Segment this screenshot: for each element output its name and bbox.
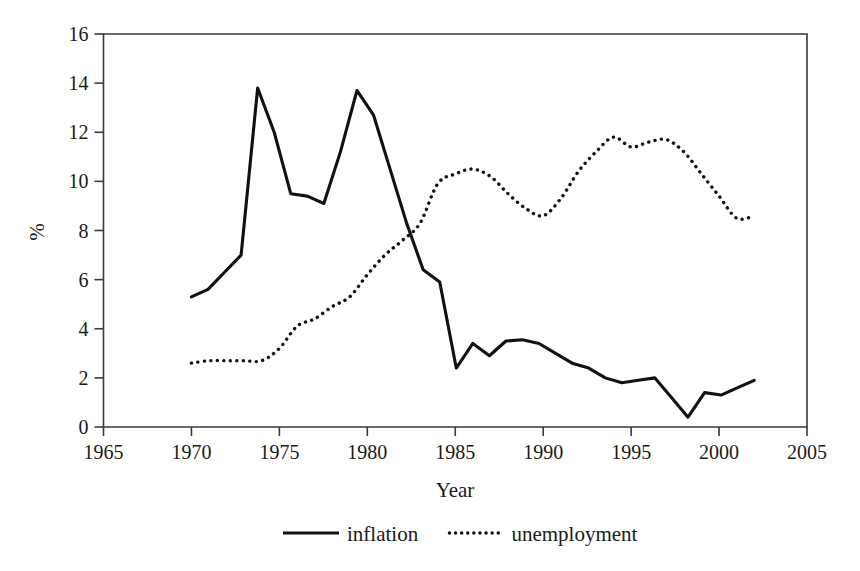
y-tick-label-8: 8	[79, 220, 89, 242]
y-tick-label-6: 6	[79, 269, 89, 291]
legend-label-unemployment: unemployment	[511, 522, 637, 546]
y-tick-label-16: 16	[69, 23, 89, 45]
y-tick-label-14: 14	[69, 72, 89, 94]
legend-label-inflation: inflation	[347, 522, 419, 546]
x-tick-label-2000: 2000	[699, 441, 739, 463]
x-tick-label-1965: 1965	[84, 441, 124, 463]
data-series-group	[191, 88, 754, 417]
y-tick-label-0: 0	[79, 416, 89, 438]
x-tick-label-1990: 1990	[523, 441, 563, 463]
x-tick-label-1975: 1975	[259, 441, 299, 463]
y-tick-label-2: 2	[79, 367, 89, 389]
chart-canvas: 196519701975198019851990199520002005 024…	[0, 0, 860, 571]
x-tick-label-1995: 1995	[611, 441, 651, 463]
x-tick-label-1985: 1985	[435, 441, 475, 463]
x-axis-tick-labels: 196519701975198019851990199520002005	[84, 441, 828, 463]
series-line-inflation	[191, 88, 754, 417]
y-tick-label-4: 4	[79, 318, 89, 340]
y-tick-label-12: 12	[69, 121, 89, 143]
x-tick-label-1980: 1980	[347, 441, 387, 463]
series-line-unemployment	[191, 137, 754, 363]
x-tick-label-1970: 1970	[171, 441, 211, 463]
x-axis-title: Year	[436, 478, 475, 502]
y-axis-tick-labels: 0246810121416	[69, 23, 89, 438]
chart-figure: 196519701975198019851990199520002005 024…	[0, 0, 860, 571]
x-axis-ticks	[104, 427, 808, 436]
chart-legend: inflationunemployment	[283, 522, 638, 546]
y-tick-label-10: 10	[69, 170, 89, 192]
y-axis-title: %	[25, 223, 49, 241]
y-axis-ticks	[95, 34, 104, 427]
x-tick-label-2005: 2005	[787, 441, 827, 463]
